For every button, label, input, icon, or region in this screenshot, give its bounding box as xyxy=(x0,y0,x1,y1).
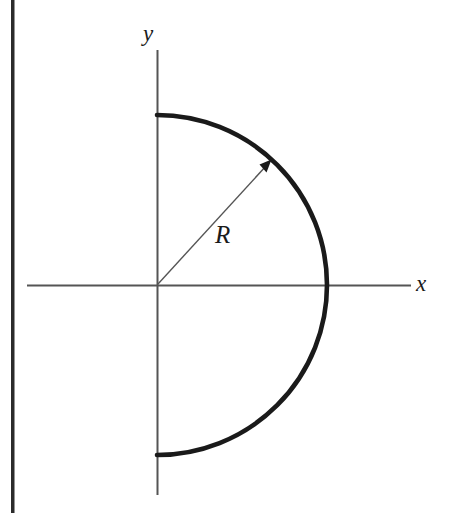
radius-label: R xyxy=(215,222,230,247)
semicircle-diagram xyxy=(0,0,456,513)
x-axis-label: x xyxy=(416,272,426,295)
figure-container: y x R xyxy=(0,0,456,513)
vertical-rule-icon xyxy=(11,0,15,513)
radius-arrow-shaft xyxy=(158,166,266,284)
y-axis-label: y xyxy=(143,22,153,45)
